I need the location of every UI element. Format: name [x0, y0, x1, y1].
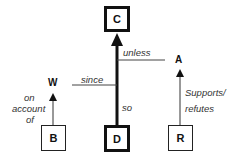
on-account-of-label-1: on: [24, 92, 35, 103]
on-account-of-label-3: of: [26, 114, 34, 125]
claim-box: C: [104, 6, 130, 32]
backing-box: B: [41, 125, 66, 151]
rebuttal-support-label: R: [177, 132, 185, 144]
backing-label: B: [50, 132, 58, 144]
unless-label: unless: [123, 47, 150, 58]
supports-refutes-label-2: refutes: [185, 103, 214, 114]
warrant-node: W: [48, 77, 57, 88]
since-label: since: [81, 74, 103, 85]
rebuttal-node: A: [175, 54, 182, 65]
rebuttal-support-box: R: [168, 125, 193, 151]
supports-refutes-label-1: Supports/: [185, 87, 226, 98]
data-box: D: [104, 125, 130, 152]
data-label: D: [113, 133, 121, 145]
on-account-of-label-2: account: [12, 103, 45, 114]
so-label: so: [122, 102, 132, 113]
claim-label: C: [113, 13, 121, 25]
